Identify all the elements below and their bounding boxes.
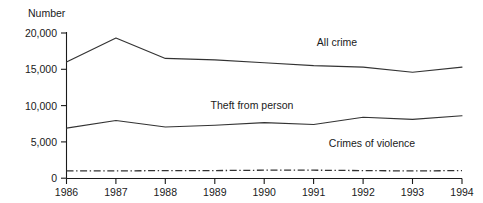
x-tick-label-1994: 1994: [450, 186, 474, 198]
line-chart: Number 20,000 15,000 10,000 5,000 0: [0, 0, 483, 203]
series-annotations: All crime Theft from person Crimes of vi…: [211, 36, 416, 149]
y-axis: 20,000 15,000 10,000 5,000 0: [25, 27, 67, 184]
x-tick-label-1991: 1991: [302, 186, 326, 198]
series-line-all-crime: [67, 38, 463, 72]
x-tick-label-1993: 1993: [401, 186, 425, 198]
x-tick-label-1992: 1992: [351, 186, 375, 198]
x-tick-label-1987: 1987: [104, 186, 128, 198]
y-tick-label-0: 0: [51, 172, 57, 184]
x-tick-label-1989: 1989: [203, 186, 227, 198]
y-tick-label-15000: 15,000: [25, 63, 57, 75]
y-axis-title: Number: [28, 7, 66, 19]
x-tick-label-1988: 1988: [154, 186, 178, 198]
y-tick-label-10000: 10,000: [25, 100, 57, 112]
x-tick-label-1990: 1990: [253, 186, 277, 198]
chart-canvas: Number 20,000 15,000 10,000 5,000 0: [0, 0, 483, 203]
series-label-crimes-of-violence: Crimes of violence: [329, 137, 416, 149]
series-line-theft-from-person: [67, 116, 463, 128]
series-line-crimes-of-violence: [67, 170, 463, 171]
y-tick-label-20000: 20,000: [25, 27, 57, 39]
series-label-theft-from-person: Theft from person: [211, 99, 294, 111]
y-tick-label-5000: 5,000: [31, 136, 57, 148]
x-axis: 1986 1987 1988 1989 1990 1991 1992 1993 …: [55, 179, 474, 199]
series-label-all-crime: All crime: [317, 36, 357, 48]
x-tick-label-1986: 1986: [55, 186, 79, 198]
